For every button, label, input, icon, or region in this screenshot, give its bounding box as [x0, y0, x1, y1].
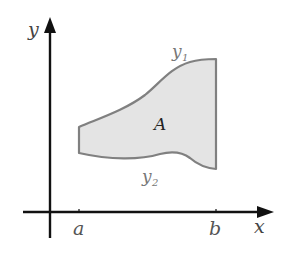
tick-label-b: b: [209, 217, 221, 239]
curve-label-y2-base: y: [141, 166, 152, 186]
curve-label-y1-subscript: 1: [182, 52, 188, 63]
curve-label-y1: y 1: [171, 41, 188, 63]
region-A: [79, 59, 216, 169]
area-between-curves-diagram: y x a b A y 1 y 2: [0, 0, 284, 259]
curve-label-y2: y 2: [141, 166, 158, 188]
region-label: A: [152, 114, 166, 134]
x-axis-label: x: [254, 215, 265, 237]
curve-label-y2-subscript: 2: [151, 177, 158, 188]
tick-label-a: a: [73, 217, 84, 239]
curve-label-y1-base: y: [171, 41, 182, 61]
y-axis-arrow-icon: [44, 17, 56, 33]
y-axis-label: y: [27, 18, 39, 40]
